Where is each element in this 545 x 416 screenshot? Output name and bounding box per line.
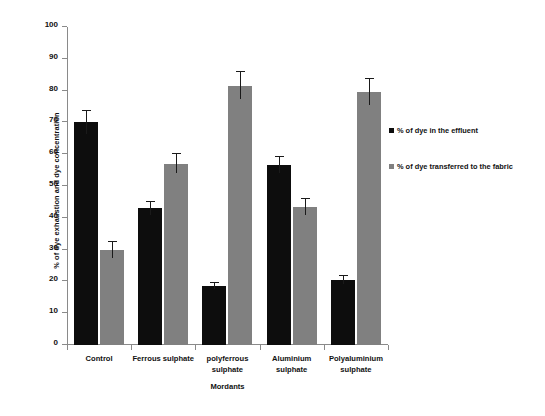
category-label-line: Polyaluminium [316, 353, 396, 364]
error-bar [150, 202, 151, 215]
bar-group [131, 27, 195, 345]
bar-group [67, 27, 131, 345]
category-label-line: sulphate [316, 364, 396, 375]
error-bar-cap [172, 153, 181, 154]
y-axis-tick-label: 0 [54, 338, 58, 347]
error-bar-cap [210, 282, 219, 283]
bar [100, 250, 124, 345]
error-bar [343, 276, 344, 284]
bar [357, 92, 381, 345]
error-bar [279, 157, 280, 173]
bar [267, 165, 291, 345]
y-axis-tick-label: 30 [49, 243, 58, 252]
legend-item-effluent: % of dye in the effluent [389, 126, 541, 135]
legend-label: % of dye in the effluent [397, 126, 478, 135]
error-bar [214, 283, 215, 289]
error-bar [305, 199, 306, 215]
error-bar-cap [82, 110, 91, 111]
x-axis-category-label: Polyaluminiumsulphate [316, 353, 396, 375]
legend-item-fabric: % of dye transferred to the fabric [389, 162, 541, 171]
x-axis-tick [324, 345, 325, 350]
legend-label: % of dye transferred to the fabric [397, 162, 513, 171]
bar [164, 164, 188, 345]
error-bar [240, 72, 241, 99]
y-axis-tick-label: 100 [45, 20, 58, 29]
y-axis-tick-label: 90 [49, 52, 58, 61]
error-bar-cap [108, 241, 117, 242]
legend-swatch-gray-icon [389, 164, 394, 169]
y-axis-tick-label: 70 [49, 115, 58, 124]
error-bar-cap [146, 201, 155, 202]
bar-group [324, 27, 388, 345]
y-axis-tick-label: 20 [49, 274, 58, 283]
x-axis-tick [67, 345, 68, 350]
x-axis-title: Mordants [67, 382, 388, 391]
legend-swatch-black-icon [389, 128, 394, 133]
bar [74, 122, 98, 345]
bar [228, 86, 252, 345]
error-bar-cap [339, 275, 348, 276]
error-bar-cap [301, 198, 310, 199]
bar [331, 280, 355, 345]
error-bar-cap [236, 71, 245, 72]
error-bar [369, 79, 370, 104]
error-bar [86, 111, 87, 133]
y-axis-tick-label: 60 [49, 147, 58, 156]
error-bar [112, 242, 113, 258]
error-bar-cap [365, 78, 374, 79]
x-axis-tick [388, 345, 389, 350]
plot-area: 0102030405060708090100 [67, 27, 388, 345]
y-axis-tick-label: 40 [49, 211, 58, 220]
y-axis-tick-label: 50 [49, 179, 58, 188]
bar [293, 207, 317, 345]
bar-chart: % of dye exhaustion and dye concentratio… [0, 0, 545, 416]
bar-group [260, 27, 324, 345]
x-axis-tick [195, 345, 196, 350]
x-axis-tick [260, 345, 261, 350]
y-axis-tick-label: 10 [49, 306, 58, 315]
bar [202, 286, 226, 345]
y-axis-tick-label: 80 [49, 84, 58, 93]
bar-group [195, 27, 259, 345]
x-axis-tick [131, 345, 132, 350]
error-bar-cap [275, 156, 284, 157]
error-bar [176, 154, 177, 173]
bar [138, 208, 162, 345]
chart-legend: % of dye in the effluent % of dye transf… [389, 126, 541, 198]
